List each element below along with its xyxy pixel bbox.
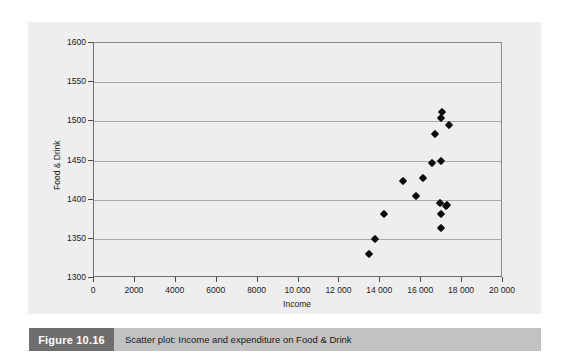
y-tick-label-1500: 1500 [40, 116, 86, 125]
x-tick-mark-4000 [175, 277, 176, 282]
x-tick-mark-0 [93, 277, 94, 282]
x-tick-mark-10000 [298, 277, 299, 282]
y-tick-label-1550: 1550 [40, 77, 86, 86]
y-tick-mark-1500 [88, 120, 93, 121]
figure-container: 1300135014001450150015501600 02000400060… [0, 0, 565, 359]
y-tick-mark-1450 [88, 160, 93, 161]
x-tick-mark-18000 [461, 277, 462, 282]
x-tick-mark-14000 [379, 277, 380, 282]
x-tick-mark-6000 [216, 277, 217, 282]
y-tick-mark-1550 [88, 81, 93, 82]
y-tick-label-1400: 1400 [40, 195, 86, 204]
x-tick-mark-20000 [502, 277, 503, 282]
y-axis-title: Food & Drink [52, 140, 62, 190]
gridline-y-1350 [94, 239, 501, 240]
figure-caption-text: Scatter plot: Income and expenditure on … [125, 328, 352, 351]
y-tick-label-1450: 1450 [40, 156, 86, 165]
y-tick-label-1350: 1350 [40, 234, 86, 243]
y-tick-mark-1400 [88, 199, 93, 200]
x-tick-mark-16000 [420, 277, 421, 282]
figure-caption-bar: Figure 10.16 Scatter plot: Income and ex… [29, 328, 541, 351]
y-tick-label-1600: 1600 [40, 38, 86, 47]
y-tick-mark-1350 [88, 238, 93, 239]
gridline-y-1550 [94, 82, 501, 83]
y-tick-label-1300: 1300 [40, 273, 86, 282]
x-tick-label-20000: 20 000 [474, 286, 530, 295]
x-tick-mark-12000 [338, 277, 339, 282]
y-tick-mark-1600 [88, 42, 93, 43]
x-axis-title: Income [237, 299, 357, 309]
figure-number: Figure 10.16 [29, 328, 114, 351]
x-tick-mark-8000 [257, 277, 258, 282]
x-tick-mark-2000 [134, 277, 135, 282]
